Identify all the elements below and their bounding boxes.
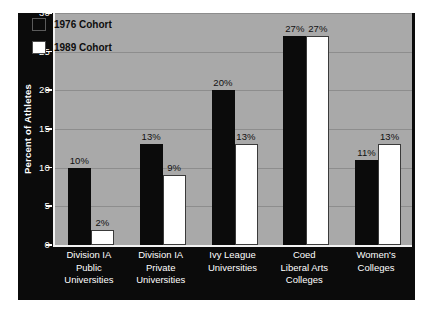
bar-value-label: 13% [136,132,167,142]
x-axis-label-line: Public [53,262,125,275]
bar-1989 [378,144,401,245]
bar-value-label: 2% [87,218,118,228]
gridline [55,13,412,14]
x-axis-label-line: Ivy League [197,249,269,262]
x-axis-label-line: Private [125,262,197,275]
bar-value-label: 20% [208,78,239,88]
x-axis-baseline [53,245,412,247]
x-axis-label: Division IAPrivateUniversities [125,249,197,287]
chart-legend: 1976 Cohort 1989 Cohort [32,16,162,62]
x-axis-label-line: Universities [197,262,269,275]
x-axis-label-line: Division IA [125,249,197,262]
y-tick-mark [46,89,52,91]
bar-1976 [68,168,91,245]
x-axis-label: CoedLiberal ArtsColleges [268,249,340,287]
bar-1976 [212,90,235,245]
y-tick-mark [46,12,52,14]
x-axis-label: Women'sColleges [340,249,412,274]
x-axis-label-line: Universities [125,274,197,287]
legend-item-1976: 1976 Cohort [32,16,162,35]
legend-label-1976: 1976 Cohort [54,18,112,31]
bar-value-label: 27% [302,24,333,34]
x-axis-label: Ivy LeagueUniversities [197,249,269,274]
y-tick-mark [46,128,52,130]
legend-item-1989: 1989 Cohort [32,39,162,58]
x-axis-label-line: Colleges [268,274,340,287]
x-axis-label-line: Colleges [340,262,412,275]
bar-1989 [235,144,258,245]
x-axis-label: Division IAPublicUniversities [53,249,125,287]
y-tick-mark [46,167,52,169]
bar-1989 [91,230,114,245]
bar-value-label: 13% [374,132,405,142]
x-axis-label-line: Division IA [53,249,125,262]
bar-1989 [163,175,186,245]
x-axis-label-line: Universities [53,274,125,287]
chart-figure: Percent of Athletes 051015202530 10%2%13… [0,0,423,323]
bar-1989 [306,36,329,245]
y-tick-mark [46,205,52,207]
legend-swatch-1989 [32,41,46,54]
x-axis-labels: Division IAPublicUniversitiesDivision IA… [53,249,412,297]
x-axis-label-line: Women's [340,249,412,262]
bar-value-label: 10% [64,156,95,166]
legend-label-1989: 1989 Cohort [54,41,112,54]
x-axis-label-line: Coed [268,249,340,262]
x-axis-label-line: Liberal Arts [268,262,340,275]
y-tick-mark [46,244,52,246]
bar-value-label: 9% [159,163,190,173]
bar-1976 [283,36,306,245]
bar-1976 [140,144,163,245]
bar-value-label: 13% [231,132,262,142]
bar-1976 [355,160,378,245]
legend-swatch-1976 [32,18,46,31]
